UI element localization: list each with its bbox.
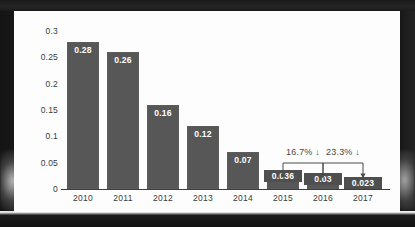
bar-value-label: 0.28: [64, 45, 102, 55]
bar-value-label: 0.03: [304, 173, 342, 185]
x-tick-label: 2011: [103, 193, 143, 203]
bar[interactable]: [67, 42, 99, 189]
bar-slot: 0.036: [263, 31, 303, 189]
bar-slot: 0.12: [183, 31, 223, 189]
x-tick-label: 2010: [63, 193, 103, 203]
chart-panel: 00.050.10.150.20.250.3 0.280.260.160.120…: [14, 11, 400, 212]
x-tick-label: 2012: [143, 193, 183, 203]
bar-value-label: 0.12: [184, 129, 222, 139]
bar[interactable]: [107, 52, 139, 189]
bar-slot: 0.26: [103, 31, 143, 189]
annotation-label: 16.7% ↓: [286, 147, 320, 157]
photo-frame-top: [0, 0, 415, 11]
bar-value-label: 0.07: [224, 155, 262, 165]
x-tick-label: 2017: [343, 193, 383, 203]
x-tick-label: 2015: [263, 193, 303, 203]
photo-frame-bottom: [0, 211, 415, 227]
bar-value-label: 0.26: [104, 55, 142, 65]
bar-slot: 0.03: [303, 31, 343, 189]
y-tick-label: 0.1: [24, 131, 58, 141]
y-tick-label: 0.15: [24, 105, 58, 115]
bar-slot: 0.07: [223, 31, 263, 189]
y-tick-label: 0.25: [24, 52, 58, 62]
y-tick-label: 0.3: [24, 26, 58, 36]
bar-slot: 0.023: [343, 31, 383, 189]
screenshot-root: 00.050.10.150.20.250.3 0.280.260.160.120…: [0, 0, 415, 227]
bar-chart: 00.050.10.150.20.250.3 0.280.260.160.120…: [14, 11, 400, 212]
bar-slot: 0.16: [143, 31, 183, 189]
annotation-label: 23.3% ↓: [326, 147, 360, 157]
bar-value-label: 0.023: [344, 177, 382, 189]
y-tick-label: 0.2: [24, 79, 58, 89]
bar-slot: 0.28: [63, 31, 103, 189]
x-axis-line: [61, 189, 390, 190]
x-tick-label: 2016: [303, 193, 343, 203]
y-tick-label: 0.05: [24, 158, 58, 168]
y-tick-label: 0: [24, 184, 58, 194]
bar-value-label: 0.036: [264, 170, 302, 182]
bar-series: 0.280.260.160.120.070.0360.030.023: [63, 31, 389, 189]
bar-value-label: 0.16: [144, 108, 182, 118]
y-axis: 00.050.10.150.20.250.3: [20, 11, 58, 212]
y-axis-line: [61, 31, 62, 189]
x-tick-label: 2013: [183, 193, 223, 203]
x-tick-label: 2014: [223, 193, 263, 203]
